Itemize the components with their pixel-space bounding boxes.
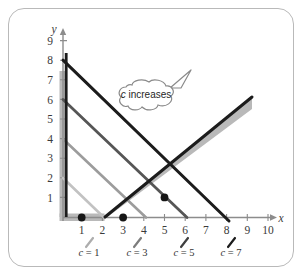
boundary-rising bbox=[105, 97, 252, 217]
y-tick-5: 5 bbox=[47, 113, 53, 125]
x-axis-name: x bbox=[277, 212, 284, 224]
point-1-0 bbox=[78, 214, 86, 222]
x-tick-2: 2 bbox=[100, 224, 106, 236]
x-tick-5: 5 bbox=[162, 224, 168, 236]
y-tick-2: 2 bbox=[47, 172, 53, 184]
y-tick-7: 7 bbox=[47, 74, 53, 86]
x-tick-1: 1 bbox=[79, 224, 85, 236]
level-label-c5: c = 5 bbox=[173, 247, 194, 258]
point-5-1 bbox=[161, 194, 169, 202]
level-label-c3: c = 3 bbox=[126, 247, 147, 258]
level-line-c3 bbox=[63, 139, 146, 218]
x-tick-9: 9 bbox=[244, 224, 250, 236]
callout-label: c increases bbox=[121, 89, 172, 100]
point-3-0 bbox=[119, 214, 127, 222]
y-tick-6: 6 bbox=[47, 94, 53, 106]
y-tick-8: 8 bbox=[47, 54, 53, 66]
x-tick-labels: 1 2 3 4 5 6 7 8 9 10 bbox=[79, 224, 274, 236]
level-label-group: c = 1 c = 3 c = 5 c = 7 bbox=[78, 238, 241, 258]
callout-bubble: c increases bbox=[119, 70, 191, 110]
x-tick-8: 8 bbox=[224, 224, 230, 236]
x-tick-7: 7 bbox=[203, 224, 209, 236]
y-tick-labels: 1 2 3 4 5 6 7 8 9 bbox=[47, 35, 53, 204]
axis-lines bbox=[60, 28, 277, 221]
level-label-c1: c = 1 bbox=[78, 247, 99, 258]
x-tick-3: 3 bbox=[120, 224, 126, 236]
level-line-c1 bbox=[63, 178, 104, 218]
x-tick-10: 10 bbox=[262, 224, 274, 236]
y-tick-1: 1 bbox=[47, 192, 53, 204]
level-label-c7: c = 7 bbox=[220, 247, 241, 258]
figure-frame: 1 2 3 4 5 6 7 8 9 10 1 2 3 4 5 6 7 8 9 x… bbox=[8, 8, 294, 267]
y-tick-9: 9 bbox=[47, 35, 53, 47]
y-tick-3: 3 bbox=[47, 152, 53, 164]
graph-plot: 1 2 3 4 5 6 7 8 9 10 1 2 3 4 5 6 7 8 9 x… bbox=[9, 9, 294, 267]
y-axis-name: y bbox=[50, 23, 57, 36]
x-tick-4: 4 bbox=[141, 224, 147, 236]
y-tick-4: 4 bbox=[47, 133, 53, 145]
x-tick-6: 6 bbox=[182, 224, 188, 236]
